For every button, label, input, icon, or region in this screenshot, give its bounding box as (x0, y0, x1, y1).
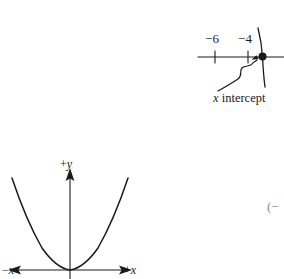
x-intercept-callout-label: x intercept (213, 92, 265, 105)
figure-canvas: −6 −4 x intercept +y −x +x (0, 0, 284, 279)
number-line-diagram (198, 42, 284, 97)
cropped-text-fragment: (− (267, 200, 279, 213)
x-intercept-callout-roman-text: intercept (219, 91, 266, 105)
parabola-diagram (0, 160, 150, 279)
x-intercept-point-marker (259, 53, 267, 61)
callout-leader-squiggle (218, 60, 257, 91)
